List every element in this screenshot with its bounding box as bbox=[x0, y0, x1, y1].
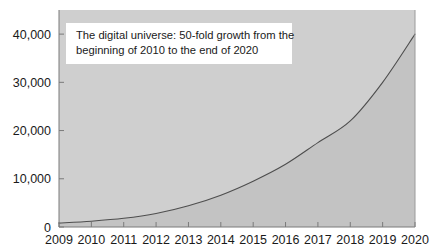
y-tick-label: 30,000 bbox=[13, 76, 51, 90]
x-tick-label: 2020 bbox=[401, 233, 429, 247]
annotation-line-2: beginning of 2010 to the end of 2020 bbox=[76, 44, 258, 56]
x-tick-label: 2019 bbox=[369, 233, 397, 247]
x-tick-label: 2011 bbox=[110, 233, 137, 247]
chart-container: 010,00020,00030,00040,000 20092010201120… bbox=[0, 0, 440, 251]
y-tick-label: 20,000 bbox=[13, 124, 51, 138]
x-tick-label: 2015 bbox=[239, 233, 267, 247]
x-tick-label: 2010 bbox=[77, 233, 105, 247]
y-axis-ticks: 010,00020,00030,00040,000 bbox=[13, 28, 64, 235]
y-tick-label: 10,000 bbox=[13, 172, 51, 186]
annotation-line-1: The digital universe: 50-fold growth fro… bbox=[76, 29, 294, 41]
x-tick-label: 2013 bbox=[175, 233, 203, 247]
annotation-callout: The digital universe: 50-fold growth fro… bbox=[66, 23, 294, 64]
x-tick-label: 2016 bbox=[272, 233, 300, 247]
area-chart: 010,00020,00030,00040,000 20092010201120… bbox=[0, 0, 440, 251]
x-tick-label: 2012 bbox=[142, 233, 170, 247]
y-tick-label: 40,000 bbox=[13, 28, 51, 42]
x-tick-label: 2014 bbox=[207, 233, 235, 247]
x-tick-label: 2017 bbox=[304, 233, 332, 247]
x-tick-label: 2018 bbox=[336, 233, 364, 247]
x-tick-label: 2009 bbox=[45, 233, 73, 247]
